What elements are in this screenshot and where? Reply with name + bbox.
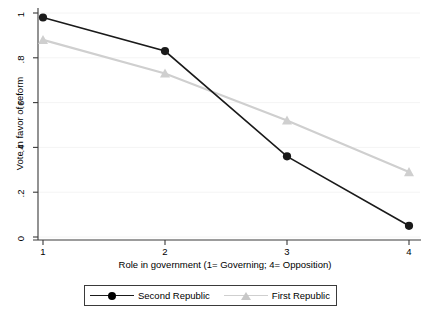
data-point: [38, 35, 48, 44]
x-axis-ticks: [43, 240, 409, 245]
legend-entry-first-republic: First Republic: [224, 290, 330, 302]
gridlines: [38, 13, 420, 237]
y-axis-ticks: [33, 13, 38, 237]
data-point: [39, 13, 47, 21]
y-tick-label-0: 0: [15, 228, 26, 250]
y-tick-label-06: .6: [15, 93, 26, 115]
y-tick-label-02: .2: [15, 183, 26, 205]
x-tick-label-4: 4: [399, 246, 419, 257]
x-axis-title: Role in government (1= Governing; 4= Opp…: [38, 259, 412, 270]
series-line-first-republic: [43, 40, 409, 172]
series-markers-second-republic: [39, 13, 413, 230]
legend-entry-second-republic: Second Republic: [90, 290, 210, 302]
data-point: [161, 47, 169, 55]
y-tick-label-1: 1: [15, 4, 26, 26]
x-tick-label-2: 2: [155, 246, 175, 257]
data-point: [283, 152, 291, 160]
line-chart-plot: [0, 0, 423, 322]
legend-label-first-republic: First Republic: [272, 290, 330, 301]
series-markers-first-republic: [38, 35, 414, 176]
chart-figure: Vote in favor of reform 1 .8 .6 .4 .2 0 …: [0, 0, 423, 322]
x-tick-label-3: 3: [277, 246, 297, 257]
data-point: [405, 222, 413, 230]
legend-label-second-republic: Second Republic: [138, 290, 210, 301]
legend-key-circle-icon: [90, 290, 134, 302]
legend-key-triangle-icon: [224, 290, 268, 302]
y-tick-label-04: .4: [15, 138, 26, 160]
x-tick-label-1: 1: [33, 246, 53, 257]
series-line-second-republic: [43, 17, 409, 225]
y-tick-label-08: .8: [15, 48, 26, 70]
legend: Second Republic First Republic: [84, 285, 337, 306]
